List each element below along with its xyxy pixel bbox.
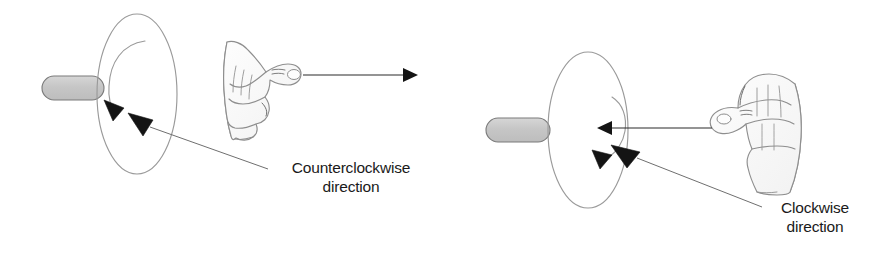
- hand-icon: [710, 74, 801, 195]
- thumb-direction-arrow-icon: [303, 68, 418, 82]
- leader-line: [637, 158, 762, 207]
- shaft-icon: [42, 76, 104, 100]
- counterclockwise-label-line-1: Counterclockwise: [266, 158, 436, 177]
- rotation-arrowhead-secondary: [128, 113, 153, 136]
- clockwise-label: Clockwise direction: [760, 198, 870, 236]
- counterclockwise-panel: [42, 14, 418, 174]
- counterclockwise-label: Counterclockwise direction: [266, 158, 436, 196]
- rotation-rule-diagram: [0, 0, 889, 260]
- clockwise-panel: [486, 52, 801, 208]
- rotation-arc-icon: [104, 41, 145, 121]
- hand-icon: [224, 41, 301, 140]
- rotation-arrowhead-secondary: [611, 145, 640, 168]
- clockwise-label-line-2: direction: [760, 217, 870, 236]
- figure-root: Counterclockwise direction Clockwise dir…: [0, 0, 889, 260]
- clockwise-label-line-1: Clockwise: [760, 198, 870, 217]
- thumb-direction-arrow-icon: [597, 121, 712, 135]
- counterclockwise-label-line-2: direction: [266, 177, 436, 196]
- shaft-icon: [486, 118, 550, 142]
- disk-icon: [548, 52, 628, 208]
